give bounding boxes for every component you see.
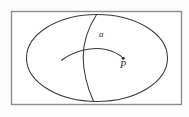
diagram-canvas (0, 0, 189, 117)
outer-rectangle-frame (12, 12, 182, 105)
curve-a-label: a (99, 30, 104, 39)
point-p-label: P (120, 60, 126, 70)
figure-container: a P (0, 0, 189, 117)
